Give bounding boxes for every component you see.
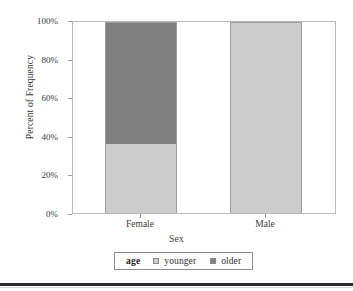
x-tick-label-male: Male — [255, 219, 275, 229]
bar-male-younger[interactable] — [230, 22, 302, 213]
legend-label-younger: younger — [164, 256, 196, 266]
bar-female-younger[interactable] — [105, 144, 177, 213]
legend-title: age — [126, 256, 140, 266]
legend-label-older: older — [221, 256, 241, 266]
bar-female-older[interactable] — [105, 22, 177, 144]
plot-area — [72, 21, 336, 214]
legend-swatch-older-icon — [210, 258, 216, 264]
bottom-divider-secondary — [0, 287, 353, 288]
y-tick-label-100: 100% — [18, 16, 58, 26]
figure-container: 100% 80% 60% 40% 20% 0% Percent of Frequ… — [0, 0, 353, 291]
x-axis-title: Sex — [0, 234, 353, 244]
legend: age younger older — [114, 252, 253, 270]
bar-male[interactable] — [230, 22, 302, 213]
y-tick-mark-0 — [68, 214, 72, 215]
legend-item-younger[interactable]: younger — [153, 256, 196, 266]
legend-swatch-younger-icon — [153, 258, 159, 264]
y-tick-label-40: 40% — [18, 132, 58, 142]
x-tick-mark-female — [140, 214, 141, 218]
legend-item-older[interactable]: older — [210, 256, 241, 266]
x-tick-label-female: Female — [126, 219, 154, 229]
y-tick-label-0: 0% — [18, 209, 58, 219]
y-axis: 100% 80% 60% 40% 20% 0% — [0, 0, 72, 291]
bottom-divider — [0, 283, 353, 286]
y-tick-label-20: 20% — [18, 170, 58, 180]
x-tick-mark-male — [265, 214, 266, 218]
y-axis-title: Percent of Frequency — [25, 0, 35, 197]
y-tick-label-60: 60% — [18, 93, 58, 103]
bars-layer — [73, 22, 335, 213]
bar-female[interactable] — [105, 22, 177, 213]
y-tick-label-80: 80% — [18, 55, 58, 65]
